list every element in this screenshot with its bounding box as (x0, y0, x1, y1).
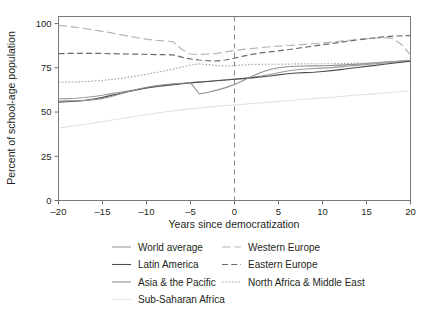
chart-legend: World averageLatin AmericaAsia & the Pac… (112, 242, 365, 306)
x-tick-label: 15 (361, 206, 372, 217)
legend-label-world-average: World average (138, 242, 203, 253)
y-tick-label: 0 (46, 195, 51, 206)
x-tick-label: 5 (276, 206, 281, 217)
y-tick-label: 25 (41, 151, 52, 162)
legend-label-latin-america: Latin America (138, 259, 199, 270)
y-axis-title: Percent of school-age population (5, 31, 17, 185)
x-axis-ticks: –20–15–10–505101520 (51, 201, 416, 218)
x-tick-label: 10 (317, 206, 328, 217)
x-tick-label: –15 (95, 206, 111, 217)
x-tick-label: 0 (232, 206, 237, 217)
legend-label-sub-saharan-africa: Sub-Saharan Africa (138, 294, 225, 305)
legend-label-asia-the-pacific: Asia & the Pacific (138, 277, 216, 288)
x-tick-label: –20 (51, 206, 67, 217)
x-tick-label: –5 (185, 206, 196, 217)
x-tick-label: –10 (139, 206, 155, 217)
legend-label-western-europe: Western Europe (248, 242, 321, 253)
y-tick-label: 75 (41, 62, 52, 73)
y-tick-label: 50 (41, 106, 52, 117)
x-axis-title: Years since democratization (169, 218, 300, 230)
series-lines (59, 25, 411, 128)
legend-label-eastern-europe: Eastern Europe (248, 259, 318, 270)
y-axis-ticks: 0255075100 (36, 18, 59, 206)
legend-label-north-africa-middle-east: North Africa & Middle East (248, 277, 365, 288)
chart-figure: –20–15–10–505101520 0255075100 Years sin… (0, 0, 425, 313)
line-chart: –20–15–10–505101520 0255075100 Years sin… (0, 0, 425, 313)
x-tick-label: 20 (405, 206, 416, 217)
y-tick-label: 100 (36, 18, 52, 29)
